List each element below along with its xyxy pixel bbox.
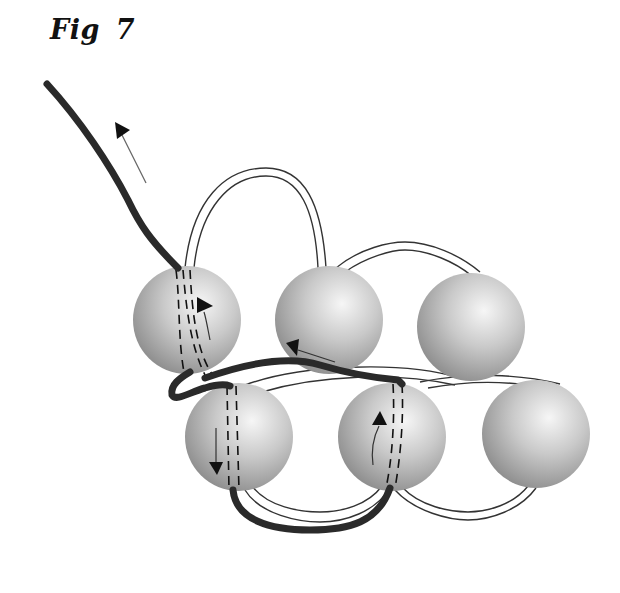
exit-arrow-icon bbox=[115, 122, 146, 183]
loop-top-arch-left bbox=[185, 168, 326, 268]
working-thread-between-rows bbox=[205, 361, 402, 384]
loop-top-arch-right bbox=[336, 242, 480, 276]
bead-bottom-left bbox=[185, 383, 293, 491]
bead-bottom-right bbox=[482, 380, 590, 488]
bead-top-right bbox=[417, 273, 525, 381]
working-thread-bottom bbox=[233, 488, 390, 530]
loop-bottom-right bbox=[395, 486, 536, 520]
working-thread-tail bbox=[47, 84, 178, 268]
beadwork-diagram bbox=[0, 0, 620, 593]
bead-top-left bbox=[133, 266, 241, 374]
